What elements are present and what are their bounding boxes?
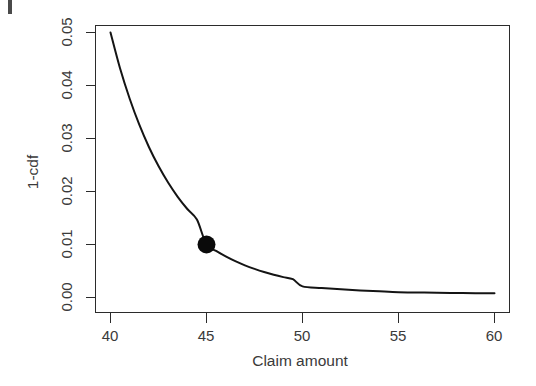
y-tick-label-3: 0.03 [58, 123, 75, 152]
y-axis-tick-labels: 0.00 0.01 0.02 0.03 0.04 0.05 [58, 17, 75, 311]
x-axis-title: Claim amount [252, 352, 348, 369]
highlight-point-0 [198, 236, 216, 254]
corner-artifact-mark [8, 0, 12, 14]
x-axis-tick-labels: 40 45 50 55 60 [102, 327, 503, 344]
chart-svg: 40 45 50 55 60 0.00 0.01 0.02 0.03 0.04 … [0, 0, 536, 386]
chart-container: 40 45 50 55 60 0.00 0.01 0.02 0.03 0.04 … [0, 0, 536, 386]
x-tick-label-1: 45 [198, 327, 215, 344]
x-tick-label-4: 60 [486, 327, 503, 344]
y-tick-label-4: 0.04 [58, 70, 75, 99]
survival-curve [111, 33, 495, 294]
y-tick-label-1: 0.01 [58, 229, 75, 258]
y-axis-ticks [86, 33, 96, 298]
y-tick-label-0: 0.00 [58, 282, 75, 311]
x-tick-label-0: 40 [102, 327, 119, 344]
plot-frame [96, 26, 510, 313]
x-axis-ticks [111, 313, 495, 323]
y-tick-label-5: 0.05 [58, 17, 75, 46]
y-axis-title: 1-cdf [24, 154, 41, 189]
x-tick-label-3: 55 [390, 327, 407, 344]
data-points-layer [198, 236, 216, 254]
y-tick-label-2: 0.02 [58, 176, 75, 205]
x-tick-label-2: 50 [294, 327, 311, 344]
